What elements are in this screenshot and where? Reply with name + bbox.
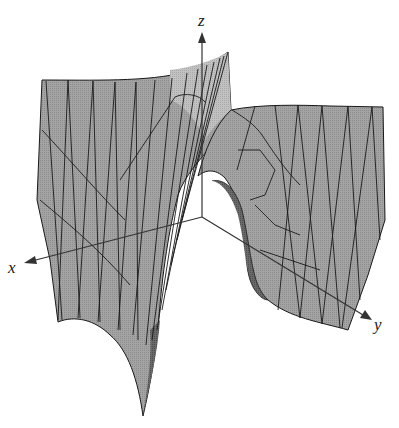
x-axis-arrow-icon bbox=[24, 256, 37, 264]
surface-plot bbox=[0, 0, 399, 428]
x-axis-label: x bbox=[8, 259, 16, 276]
z-axis-label: z bbox=[198, 12, 205, 29]
y-axis-label: y bbox=[374, 316, 382, 333]
z-axis-arrow-icon bbox=[198, 32, 206, 43]
y-axis-arrow-icon bbox=[360, 310, 372, 320]
